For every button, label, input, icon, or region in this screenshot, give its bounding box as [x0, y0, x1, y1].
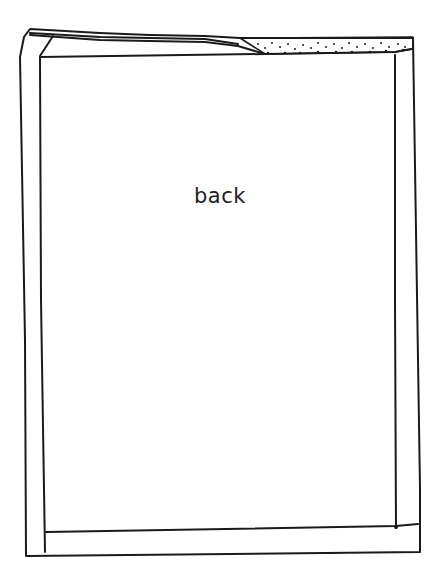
inner-left-edge [40, 57, 45, 552]
corner-dot [394, 525, 398, 529]
pattern-drawing [0, 0, 442, 574]
corner-diagonal [40, 36, 53, 56]
inner-right-edge [395, 55, 396, 528]
outer-outline [20, 29, 420, 556]
panel-label: back [194, 184, 246, 208]
inner-bottom-edge [46, 524, 418, 532]
